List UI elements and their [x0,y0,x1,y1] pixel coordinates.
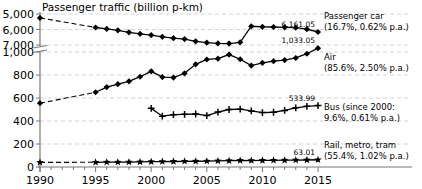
series-legend-label: Bus (since 2000: [324,102,395,112]
series-end-value: 533.99 [289,94,315,103]
x-axis-label: 1990 [26,174,54,187]
series-end-value: 1,033.05 [282,36,316,45]
data-point-marker [270,109,277,116]
data-point-marker [103,158,111,165]
series-rail-metro-tram: 63.01 [36,148,322,166]
series-legend-sublabel: 9.6%, 0.61% p.a.) [324,113,400,123]
data-point-marker [259,109,266,116]
data-point-marker [159,158,167,165]
x-axis-label: 2015 [304,174,332,187]
data-point-marker [270,156,278,163]
series-bus-since-2000: 533.99 [148,94,322,120]
data-point-marker [104,84,110,90]
data-point-marker [93,89,99,95]
data-point-marker [125,158,133,165]
data-point-marker [170,157,178,164]
data-point-marker [204,56,210,62]
passenger-traffic-line-chart: Passenger traffic (billion p-km)02004006… [0,0,422,189]
data-point-marker [281,107,288,114]
data-point-marker [159,34,165,40]
data-point-marker [148,32,154,38]
data-point-marker [181,111,188,118]
data-point-marker [314,156,322,163]
series-legend-label: Passenger car [324,11,384,21]
data-point-marker [270,58,276,64]
data-point-marker [170,111,177,118]
x-axis-label: 1995 [82,174,110,187]
series-legend-sublabel: (55.4%, 1.02% p.a.) [324,151,409,161]
y-axis-label: 600 [13,92,34,105]
data-point-marker [148,68,154,74]
y-axis-label: 400 [13,115,34,128]
data-point-marker [137,74,143,80]
data-point-marker [181,157,189,164]
data-point-marker [215,40,221,46]
series-end-value: 63.01 [294,148,316,157]
data-point-marker [226,41,232,47]
data-point-marker [37,15,43,21]
data-point-marker [293,55,299,61]
data-point-marker [282,57,288,63]
data-point-marker [303,103,310,110]
series-dashed-segment [40,18,96,28]
data-point-marker [248,62,254,68]
y-axis-label: 6,000 [3,24,35,37]
data-point-marker [126,78,132,84]
data-point-marker [181,36,187,42]
data-point-marker [303,156,311,163]
data-point-marker [237,106,244,113]
x-axis-label: 2000 [137,174,165,187]
data-point-marker [114,158,122,165]
data-point-marker [247,157,255,164]
data-point-marker [259,24,265,30]
data-point-marker [37,100,43,106]
data-point-marker [225,157,233,164]
data-point-marker [92,158,100,165]
data-point-marker [192,157,200,164]
data-point-marker [248,107,255,114]
y-axis-label: 5,000 [3,8,35,21]
series-legend-label: Air [324,52,336,62]
series-legend-label: Rail, metro, tram [324,140,396,150]
data-point-marker [193,38,199,44]
x-axis-label: 2010 [248,174,276,187]
data-point-marker [203,112,210,119]
data-point-marker [115,81,121,87]
data-point-marker [147,158,155,165]
data-point-marker [315,45,321,51]
data-point-marker [215,109,222,116]
data-point-marker [237,56,243,62]
data-point-marker [304,51,310,57]
series-passenger-car: 6,161.05 [37,15,321,47]
data-point-marker [136,158,144,165]
series-legend-sublabel: (16.7%, 0.62% p.a.) [324,22,409,32]
data-point-marker [315,102,322,109]
data-point-marker [170,35,176,41]
data-point-marker [126,29,132,35]
data-point-marker [137,31,143,37]
y-axis-label: 800 [13,69,34,82]
x-axis-label: 2005 [193,174,221,187]
chart-container: Passenger traffic (billion p-km)02004006… [0,0,422,189]
series-legend-sublabel: (85.6%, 2.50% p.a.) [324,63,409,73]
data-point-marker [214,157,222,164]
y-axis-label: 7,000 [3,39,35,52]
data-point-marker [236,156,244,163]
data-point-marker [203,157,211,164]
data-point-marker [104,26,110,32]
data-point-marker [292,156,300,163]
data-point-marker [115,27,121,33]
data-point-marker [281,156,289,163]
data-point-marker [292,104,299,111]
data-point-marker [226,106,233,113]
data-point-marker [192,111,199,118]
y-axis-label: 200 [13,138,34,151]
data-point-marker [215,56,221,62]
data-point-marker [259,60,265,66]
chart-title: Passenger traffic (billion p-km) [42,1,203,13]
y-axis-label: 0 [27,161,34,174]
series-air: 1,033.05 [37,36,321,106]
data-point-marker [259,156,267,163]
series-line [96,48,318,92]
series-end-value: 6,161.05 [282,20,316,29]
